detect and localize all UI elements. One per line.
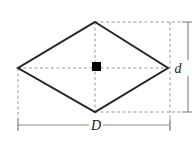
construction-guides	[18, 22, 183, 130]
dimension-line-d	[182, 22, 192, 112]
long-diagonal-label: D	[90, 118, 101, 133]
center-point-marker	[92, 62, 101, 71]
rhombus-figure: D d	[0, 0, 192, 147]
rhombus-diagram-canvas: D d	[0, 0, 192, 147]
short-diagonal-label: d	[175, 61, 183, 76]
